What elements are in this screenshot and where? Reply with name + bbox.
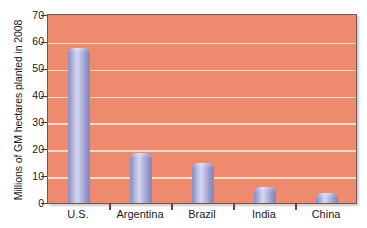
gridline [48, 70, 356, 72]
gridline [48, 150, 356, 152]
bar [130, 153, 152, 203]
bar [254, 187, 276, 203]
bar [68, 48, 90, 203]
gridline [48, 97, 356, 99]
gridline [48, 43, 356, 45]
bar [192, 163, 214, 203]
x-axis-category-label: U.S. [47, 207, 109, 221]
x-axis-category-label: India [233, 207, 295, 221]
x-axis-category-label: Brazil [171, 207, 233, 221]
bar-chart-figure: Millions of GM hectares planted in 2008 … [0, 0, 367, 228]
bar [316, 193, 338, 203]
x-axis-category-label: China [295, 207, 357, 221]
gridline [48, 123, 356, 125]
plot-area [47, 14, 357, 204]
y-axis-tick-labels: 010203040506070 [22, 0, 44, 228]
x-axis-category-label: Argentina [109, 207, 171, 221]
